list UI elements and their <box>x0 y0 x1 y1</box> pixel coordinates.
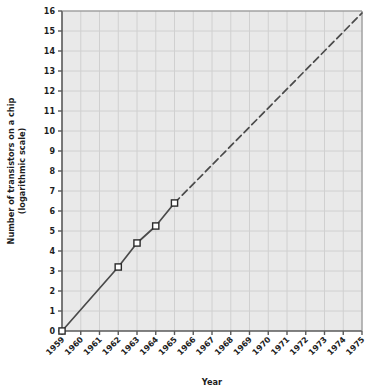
y-tick-label: 6 <box>49 207 55 216</box>
y-tick-label: 11 <box>44 107 56 116</box>
x-axis-title: Year <box>201 377 223 387</box>
y-tick-label: 0 <box>49 327 55 336</box>
y-tick-label: 1 <box>49 307 55 316</box>
data-point-marker <box>153 223 159 229</box>
data-point-marker <box>134 240 140 246</box>
data-point-marker <box>115 264 121 270</box>
y-tick-label: 13 <box>44 67 55 76</box>
y-tick-label: 16 <box>44 7 56 16</box>
y-tick-label: 10 <box>44 127 56 136</box>
chart-canvas: 161514131211109876543210 195919601961196… <box>0 0 377 392</box>
y-tick-label: 8 <box>49 167 55 176</box>
y-tick-label: 12 <box>44 87 55 96</box>
data-point-marker <box>171 200 177 206</box>
y-tick-label: 7 <box>49 187 55 196</box>
y-tick-label: 4 <box>49 247 55 256</box>
y-tick-label: 14 <box>44 47 56 56</box>
y-tick-label: 9 <box>49 147 55 156</box>
y-tick-label: 3 <box>49 267 55 276</box>
moores-law-chart: 161514131211109876543210 195919601961196… <box>0 0 377 392</box>
y-tick-label: 15 <box>44 27 56 36</box>
y-tick-label: 5 <box>49 227 55 236</box>
y-tick-label: 2 <box>49 287 55 296</box>
y-axis-title-line1: Number of transistors on a chip <box>6 97 16 244</box>
y-axis-title-line2: (logarithmic scale) <box>17 127 27 214</box>
data-point-marker <box>59 328 65 334</box>
